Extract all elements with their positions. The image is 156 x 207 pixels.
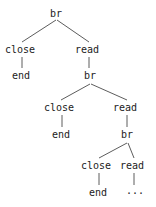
tree-node-close-3: close (81, 160, 111, 171)
tree-node-read-2: read (113, 102, 137, 113)
edge-root-to-read (57, 20, 89, 42)
edge-br3-to-read3 (128, 143, 134, 158)
recursive-tree-figure: br close read end br close read end br c… (0, 0, 156, 207)
tree-node-ellipsis: ··· (126, 188, 144, 199)
tree-node-read-1: read (75, 44, 99, 55)
tree-node-end-3: end (89, 187, 107, 198)
tree-node-end-2: end (52, 129, 70, 140)
tree-node-close-2: close (44, 102, 74, 113)
tree-node-root-br: br (50, 8, 62, 19)
tree-node-br-3: br (121, 129, 133, 140)
tree-node-read-3: read (120, 160, 144, 171)
tree-node-close-1: close (5, 44, 35, 55)
edge-br2-to-close2 (61, 84, 90, 100)
edge-br2-to-read2 (91, 84, 127, 100)
edge-root-to-close (22, 20, 56, 42)
tree-node-end-1: end (12, 70, 30, 81)
edge-br3-to-close3 (99, 143, 127, 158)
tree-node-br-2: br (84, 70, 96, 81)
